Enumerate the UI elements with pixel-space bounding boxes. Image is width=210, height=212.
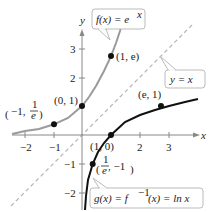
callout-ln: g(x) = f −1 (x) = ln x xyxy=(90,178,203,208)
y-tick-2: 2 xyxy=(70,72,76,84)
y-tick-neg2: −2 xyxy=(64,187,76,199)
svg-text:(: ( xyxy=(5,108,9,121)
svg-text:e: e xyxy=(102,164,107,176)
function-inverse-graph: −2 −1 2 3 3 2 −1 −2 x y (0, 1) (1, e) (e… xyxy=(0,0,210,212)
label-neg1-inv-e: ( −1, 1 e ) xyxy=(5,98,43,121)
x-tick-neg2: −2 xyxy=(20,141,32,153)
label-e-1: (e, 1) xyxy=(138,88,162,101)
y-axis-arrow-icon xyxy=(80,29,85,36)
label-1-e: (1, e) xyxy=(116,50,140,63)
x-tick-2: 2 xyxy=(137,141,143,153)
point-neg1-inv-e xyxy=(51,121,57,127)
svg-text:−1,: −1, xyxy=(11,105,26,117)
point-e-1 xyxy=(158,103,164,109)
x-axis-arrow-icon xyxy=(193,133,200,138)
svg-text:, −1: , −1 xyxy=(108,160,125,172)
svg-text:x: x xyxy=(136,8,142,20)
svg-text:(x) = ln x: (x) = ln x xyxy=(148,192,189,205)
x-tick-neg1: −1 xyxy=(49,141,61,153)
callout-identity: y = x xyxy=(160,56,205,88)
svg-text:f(x) = e: f(x) = e xyxy=(96,13,129,26)
point-0-1 xyxy=(79,103,85,109)
y-axis-label: y xyxy=(79,14,85,26)
svg-text:e: e xyxy=(31,109,36,121)
svg-text:): ) xyxy=(130,163,134,176)
point-1-0 xyxy=(108,132,114,138)
label-0-1: (0, 1) xyxy=(54,94,78,107)
point-inv-e-neg1 xyxy=(90,161,96,167)
svg-text:(: ( xyxy=(96,163,100,176)
y-tick-neg1: −1 xyxy=(64,158,76,170)
x-axis-label: x xyxy=(200,129,206,141)
y-tick-3: 3 xyxy=(70,43,76,55)
svg-text:): ) xyxy=(39,108,43,121)
svg-text:g(x) = f: g(x) = f xyxy=(94,192,130,205)
label-1-0: (1, 0) xyxy=(90,140,114,153)
svg-text:y = x: y = x xyxy=(169,73,193,85)
point-1-e xyxy=(108,53,114,59)
x-tick-3: 3 xyxy=(166,141,172,153)
label-inv-e-neg1: ( 1 e , −1 ) xyxy=(96,153,134,176)
